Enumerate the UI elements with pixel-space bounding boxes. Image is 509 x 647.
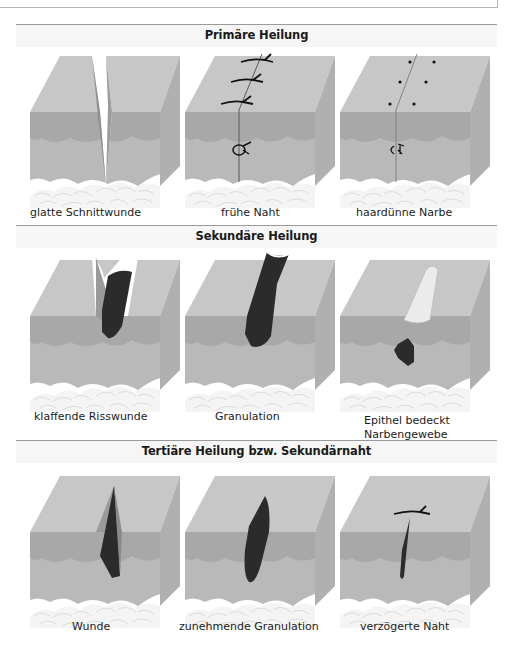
caption: glatte Schnittwunde [30, 206, 141, 220]
caption: Epithel bedeckt Narbengewebe [364, 414, 450, 442]
panel-granulation: Granulation [177, 250, 337, 430]
caption: verzögerte Naht [360, 620, 449, 634]
panel-wound: Wunde [22, 466, 182, 646]
top-frame [0, 0, 498, 8]
panel-increasing-granulation: zunehmende Granulation [177, 466, 337, 646]
section-title: Tertiäre Heilung bzw. Sekundärnaht [16, 444, 497, 458]
panel-epithelium-covers-scar: Epithel bedeckt Narbengewebe [332, 250, 492, 430]
panel-thin-scar: haardünne Narbe [332, 46, 492, 216]
caption: Granulation [215, 410, 280, 424]
early-suture-illustration [177, 46, 337, 216]
wound-illustration [22, 466, 182, 646]
increasing-granulation-illustration [177, 466, 337, 646]
caption: klaffende Risswunde [34, 410, 148, 424]
delayed-suture-illustration [332, 466, 492, 646]
thin-scar-illustration [332, 46, 492, 216]
panel-delayed-suture: verzögerte Naht [332, 466, 492, 646]
clean-incision-illustration [22, 46, 182, 216]
panel-early-suture: frühe Naht [177, 46, 337, 216]
granulation-illustration [177, 250, 337, 430]
panel-gaping-laceration: klaffende Risswunde [22, 250, 182, 430]
section-title: Sekundäre Heilung [16, 229, 497, 243]
caption: frühe Naht [221, 206, 280, 220]
panel-clean-incision: glatte Schnittwunde [22, 46, 182, 216]
caption: haardünne Narbe [356, 206, 452, 220]
section-title: Primäre Heilung [16, 28, 497, 42]
caption: Wunde [72, 620, 110, 634]
epithelium-covers-scar-illustration [332, 250, 492, 430]
gaping-laceration-illustration [22, 250, 182, 430]
caption: zunehmende Granulation [179, 620, 319, 634]
